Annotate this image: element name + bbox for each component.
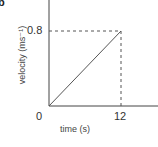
y-tick-0-8: 0.8 bbox=[27, 24, 42, 36]
x-tick-0: 0 bbox=[36, 110, 42, 122]
x-axis-label: time (s) bbox=[60, 124, 90, 134]
y-axis-label: velocity (ms⁻¹) bbox=[17, 25, 27, 85]
x-tick-12: 12 bbox=[114, 110, 126, 122]
data-line bbox=[49, 31, 121, 106]
